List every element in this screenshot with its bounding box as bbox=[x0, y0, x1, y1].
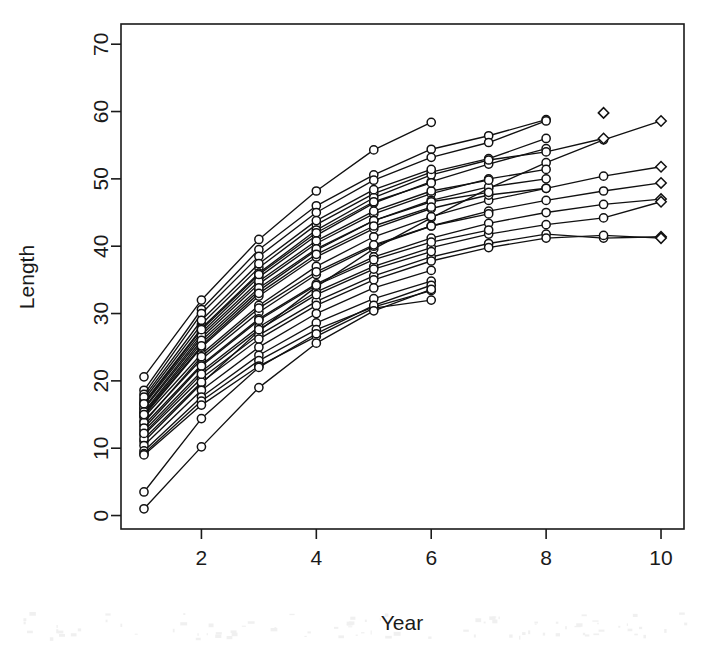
noise-speck bbox=[23, 618, 26, 621]
y-tick-label: 40 bbox=[90, 235, 113, 258]
data-point bbox=[542, 134, 550, 142]
noise-speck bbox=[197, 633, 198, 636]
noise-speck bbox=[173, 629, 175, 633]
data-point bbox=[370, 233, 378, 241]
noise-speck bbox=[29, 612, 36, 616]
data-point bbox=[312, 250, 320, 258]
data-point bbox=[542, 208, 550, 216]
noise-speck bbox=[509, 635, 512, 638]
data-point bbox=[542, 117, 550, 125]
noise-speck bbox=[27, 631, 33, 634]
noise-speck bbox=[474, 635, 476, 638]
noise-speck bbox=[475, 618, 481, 622]
noise-speck bbox=[385, 636, 392, 639]
x-tick-label: 2 bbox=[196, 546, 208, 569]
noise-speck bbox=[639, 627, 642, 629]
data-point bbox=[427, 179, 435, 187]
x-axis: 246810 bbox=[196, 529, 673, 569]
noise-speck bbox=[57, 625, 58, 628]
noise-speck bbox=[106, 620, 108, 623]
data-point bbox=[140, 505, 148, 513]
noise-speck bbox=[308, 631, 311, 633]
data-point bbox=[485, 176, 493, 184]
data-point bbox=[427, 266, 435, 274]
data-point bbox=[312, 229, 320, 237]
data-point bbox=[255, 363, 263, 371]
noise-speck bbox=[371, 631, 372, 635]
data-point bbox=[197, 414, 205, 422]
growth-curve-figure: 010203040506070 246810 Length Year bbox=[0, 0, 710, 649]
data-point bbox=[197, 378, 205, 386]
noise-speck bbox=[304, 636, 306, 637]
noise-speck bbox=[289, 614, 294, 615]
data-point bbox=[197, 401, 205, 409]
series-subject-11 bbox=[140, 230, 666, 439]
data-point bbox=[312, 339, 320, 347]
series-subject-01 bbox=[140, 118, 435, 381]
noise-speck bbox=[534, 622, 538, 624]
noise-speck bbox=[535, 624, 537, 625]
noise-speck bbox=[499, 617, 500, 620]
series-subject-12 bbox=[140, 231, 666, 443]
data-point-diamond bbox=[656, 116, 666, 126]
data-point bbox=[427, 153, 435, 161]
data-point bbox=[542, 175, 550, 183]
noise-speck bbox=[248, 621, 255, 624]
data-point bbox=[140, 451, 148, 459]
data-point bbox=[312, 309, 320, 317]
data-point bbox=[542, 148, 550, 156]
y-tick-label: 20 bbox=[90, 369, 113, 392]
data-point bbox=[197, 353, 205, 361]
series-subject-06 bbox=[140, 116, 666, 446]
data-point bbox=[599, 231, 607, 239]
noise-speck bbox=[463, 630, 469, 632]
noise-speck bbox=[492, 617, 496, 618]
data-point bbox=[255, 304, 263, 312]
noise-speck bbox=[583, 633, 585, 635]
noise-speck bbox=[593, 634, 599, 636]
noise-speck bbox=[78, 628, 81, 631]
data-point bbox=[312, 187, 320, 195]
noise-speck bbox=[59, 634, 65, 637]
noise-speck bbox=[575, 626, 581, 627]
noise-speck bbox=[347, 624, 353, 626]
data-point bbox=[485, 226, 493, 234]
data-point bbox=[370, 241, 378, 249]
data-point bbox=[542, 184, 550, 192]
data-point bbox=[427, 296, 435, 304]
y-axis-title: Length bbox=[15, 245, 38, 309]
noise-speck bbox=[582, 614, 587, 616]
noise-speck bbox=[50, 637, 53, 641]
y-tick-label: 10 bbox=[90, 437, 113, 460]
noise-speck bbox=[216, 632, 222, 634]
noise-speck bbox=[232, 633, 238, 637]
noise-speck bbox=[361, 632, 364, 633]
noise-speck bbox=[71, 633, 77, 636]
series-layer bbox=[140, 108, 666, 513]
data-point-diamond bbox=[656, 178, 666, 188]
data-point bbox=[140, 410, 148, 418]
data-point bbox=[485, 138, 493, 146]
noise-speck bbox=[348, 626, 352, 627]
data-point bbox=[255, 289, 263, 297]
data-point bbox=[255, 270, 263, 278]
x-tick-label: 4 bbox=[310, 546, 322, 569]
data-point bbox=[542, 234, 550, 242]
noise-speck bbox=[231, 630, 237, 633]
data-point bbox=[255, 316, 263, 324]
data-point bbox=[312, 330, 320, 338]
y-tick-label: 70 bbox=[90, 33, 113, 56]
noise-speck bbox=[242, 626, 246, 627]
noise-speck bbox=[519, 636, 520, 640]
data-point bbox=[370, 207, 378, 215]
data-point bbox=[370, 265, 378, 273]
y-tick-label: 50 bbox=[90, 167, 113, 190]
noise-speck bbox=[556, 633, 560, 636]
noise-speck bbox=[105, 613, 110, 615]
data-point bbox=[370, 307, 378, 315]
data-point bbox=[197, 316, 205, 324]
data-point bbox=[370, 146, 378, 154]
noise-speck bbox=[356, 635, 358, 636]
noise-speck bbox=[633, 614, 638, 617]
data-point bbox=[427, 187, 435, 195]
